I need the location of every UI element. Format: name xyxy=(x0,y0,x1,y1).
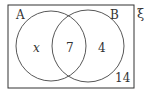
set-a-label: A xyxy=(15,8,25,22)
universal-symbol: ξ xyxy=(137,6,144,21)
region-a-and-b: 7 xyxy=(66,41,74,55)
venn-diagram: ξ A B x 7 4 14 xyxy=(0,0,145,99)
set-a-circle xyxy=(16,11,86,81)
region-a-only: x xyxy=(33,41,40,55)
region-b-only: 4 xyxy=(98,41,106,55)
set-b-label: B xyxy=(110,8,119,22)
region-outside: 14 xyxy=(115,71,131,85)
